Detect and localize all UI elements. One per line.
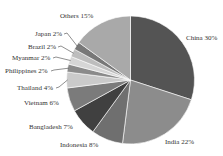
label-india: India 22%: [165, 138, 194, 146]
label-myanmar: Myanmar 2%: [12, 54, 50, 62]
label-china: China 30%: [186, 34, 217, 42]
label-thailand: Thailand 4%: [17, 84, 53, 92]
label-bangladesh: Bangladesh 7%: [29, 123, 73, 131]
label-others: Others 15%: [60, 12, 93, 20]
leader-japan: [64, 33, 77, 46]
label-brazil: Brazil 2%: [28, 43, 56, 51]
label-philippines: Philippines 2%: [5, 67, 48, 75]
leader-thailand: [56, 80, 68, 88]
label-japan: Japan 2%: [35, 30, 62, 38]
leader-myanmar: [53, 57, 71, 61]
label-indonesia: Indonesia 8%: [60, 141, 98, 149]
leader-brazil: [58, 46, 73, 53]
label-vietnam: Vietnam 6%: [24, 99, 59, 107]
pie-slices: [67, 16, 195, 144]
pie-chart: China 30% India 22% Indonesia 8% Banglad…: [0, 0, 223, 156]
leader-philippines: [51, 68, 69, 71]
